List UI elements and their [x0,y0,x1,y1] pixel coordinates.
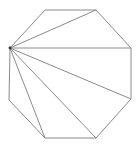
octagon-diagram [0,0,140,146]
hub-vertex [9,47,12,50]
diagonal-line [10,10,96,48]
diagonal-line [10,48,131,99]
octagon-outline [9,10,131,138]
diagonal-line [10,48,96,138]
diagonal-line [10,48,45,138]
